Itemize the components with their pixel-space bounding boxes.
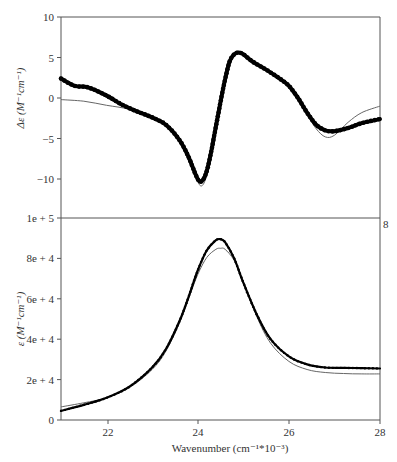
bottom-xtick-label: 24 xyxy=(193,426,205,438)
figure: 10 5 0 −5 −10 Δε (M⁻¹cm⁻¹) 8 1e + 5 8e +… xyxy=(0,0,397,462)
bottom-ytick-label: 2e + 4 xyxy=(26,374,54,386)
top-ytick-label: −5 xyxy=(42,133,54,145)
top-y-ticks: 10 5 0 −5 −10 xyxy=(37,11,61,185)
bottom-ytick-label: 8e + 4 xyxy=(26,252,54,264)
top-data-curve xyxy=(61,53,380,182)
top-y-axis-title: Δε (M⁻¹cm⁻¹) xyxy=(14,67,27,129)
bottom-data-curve xyxy=(61,239,380,411)
bottom-ytick-label: 4e + 4 xyxy=(26,333,54,345)
top-plot-area xyxy=(59,50,381,186)
top-panel: 10 5 0 −5 −10 Δε (M⁻¹cm⁻¹) xyxy=(14,11,381,218)
top-data-dots xyxy=(59,50,381,184)
bottom-y-axis-title: ε (M⁻¹cm⁻¹) xyxy=(14,291,27,346)
bottom-ytick-label: 1e + 5 xyxy=(26,212,54,224)
bottom-x-axis-title: Wavenumber (cm⁻¹*10⁻³) xyxy=(172,442,289,455)
top-ytick-label: 5 xyxy=(49,52,55,64)
bottom-xtick-label: 28 xyxy=(375,426,387,438)
stray-label: 8 xyxy=(383,218,389,230)
bottom-data-dots xyxy=(60,238,378,412)
top-ytick-label: 0 xyxy=(49,92,55,104)
bottom-panel: 1e + 5 8e + 4 6e + 4 4e + 4 2e + 4 0 22 … xyxy=(14,212,386,455)
bottom-y-ticks: 1e + 5 8e + 4 6e + 4 4e + 4 2e + 4 0 xyxy=(26,212,61,426)
top-fit-curve xyxy=(61,53,380,186)
bottom-xtick-label: 26 xyxy=(284,426,296,438)
top-ytick-label: −10 xyxy=(37,173,55,185)
bottom-x-ticks: 22 24 26 28 xyxy=(103,420,387,438)
bottom-ytick-label: 0 xyxy=(49,414,55,426)
bottom-plot-area xyxy=(60,238,380,412)
bottom-fit-curve xyxy=(61,248,380,407)
bottom-ytick-label: 6e + 4 xyxy=(26,293,54,305)
bottom-xtick-label: 22 xyxy=(103,426,114,438)
top-ytick-label: 10 xyxy=(43,11,55,23)
